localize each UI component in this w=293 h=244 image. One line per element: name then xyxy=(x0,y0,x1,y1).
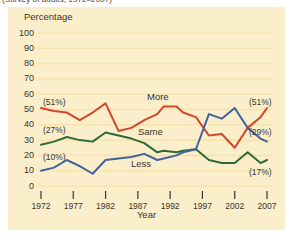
annotation-left-same: (27%) xyxy=(43,125,66,135)
x-axis-tick-label: 2007 xyxy=(250,202,284,211)
y-axis-tick-label: 70 xyxy=(8,74,34,83)
y-axis-tick-label: 80 xyxy=(8,59,34,68)
figure: (Survey of adults, 1972–2007) Percentage… xyxy=(0,0,293,244)
x-axis-tick-label: 1977 xyxy=(56,202,90,211)
y-axis-tick-label: 20 xyxy=(8,151,34,160)
y-axis-tick-label: 30 xyxy=(8,136,34,145)
annotation-right-more: (51%) xyxy=(249,97,272,107)
y-axis-tick-label: 50 xyxy=(8,105,34,114)
series-label-less: Less xyxy=(131,158,151,169)
y-axis-tick-label: 0 xyxy=(8,182,34,191)
x-axis-tick-label: 1992 xyxy=(153,202,187,211)
x-axis-tick-label: 1997 xyxy=(185,202,219,211)
annotation-left-more: (51%) xyxy=(43,97,66,107)
series-label-more: More xyxy=(147,91,169,102)
y-axis-tick-label: 10 xyxy=(8,166,34,175)
annotation-right-same: (17%) xyxy=(249,167,272,177)
y-axis-tick-label: 60 xyxy=(8,90,34,99)
y-axis-tick-label: 100 xyxy=(8,29,34,38)
annotation-left-less: (10%) xyxy=(43,152,66,162)
x-axis-tick-label: 2002 xyxy=(218,202,252,211)
y-axis-tick-label: 90 xyxy=(8,44,34,53)
x-axis-tick-label: 1987 xyxy=(121,202,155,211)
y-axis-tick-label: 40 xyxy=(8,120,34,129)
series-label-same: Same xyxy=(138,126,163,137)
annotation-right-less: (29%) xyxy=(249,127,272,137)
x-axis-tick-label: 1972 xyxy=(24,202,58,211)
x-axis-tick-label: 1982 xyxy=(89,202,123,211)
